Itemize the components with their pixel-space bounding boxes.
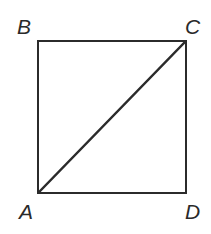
vertex-label-c: C <box>185 16 200 37</box>
square-diagram-svg <box>0 0 211 234</box>
diagonal-line-ac <box>39 42 185 192</box>
vertex-label-b: B <box>17 16 31 37</box>
vertex-label-a: A <box>19 201 33 222</box>
vertex-label-d: D <box>185 201 200 222</box>
geometry-figure-canvas: B C A D <box>0 0 211 234</box>
